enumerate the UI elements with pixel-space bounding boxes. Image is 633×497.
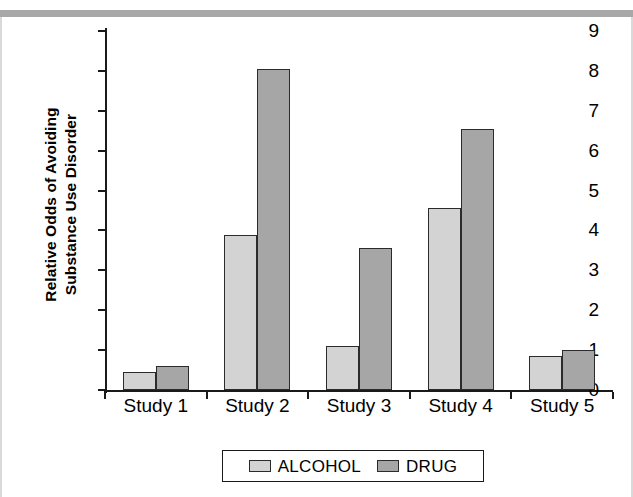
- page-top-margin: [0, 0, 633, 10]
- y-tick-6: [98, 150, 105, 152]
- bar-drug-study-1: [156, 366, 189, 390]
- y-tick-label-8: 8: [559, 61, 599, 80]
- x-label-study-2: Study 2: [207, 396, 309, 417]
- bar-drug-study-2: [257, 69, 290, 390]
- legend-entry-drug: DRUG: [377, 458, 457, 475]
- scan-artifact-bar: [0, 10, 633, 17]
- y-tick-3: [98, 269, 105, 271]
- bar-chart-figure: Relative Odds of Avoiding Substance Use …: [0, 0, 633, 497]
- legend-label-drug: DRUG: [406, 458, 457, 475]
- y-tick-label-6: 6: [559, 141, 599, 160]
- legend-swatch-alcohol-icon: [249, 460, 271, 472]
- y-tick-1: [98, 349, 105, 351]
- y-tick-label-9: 9: [559, 21, 599, 40]
- y-axis-title: Relative Odds of Avoiding Substance Use …: [0, 0, 60, 420]
- y-tick-label-3: 3: [559, 260, 599, 279]
- chart-legend: ALCOHOL DRUG: [222, 450, 484, 482]
- y-axis-title-line-2: Substance Use Disorder: [61, 55, 80, 355]
- legend-label-alcohol: ALCOHOL: [278, 458, 361, 475]
- y-axis-title-line-1: Relative Odds of Avoiding: [41, 55, 60, 355]
- bar-alcohol-study-1: [123, 372, 156, 390]
- x-label-study-3: Study 3: [308, 396, 410, 417]
- bar-alcohol-study-2: [224, 235, 257, 390]
- legend-entry-alcohol: ALCOHOL: [249, 458, 361, 475]
- x-label-study-4: Study 4: [410, 396, 512, 417]
- x-label-study-5: Study 5: [511, 396, 613, 417]
- y-tick-0: [98, 389, 105, 391]
- y-tick-7: [98, 110, 105, 112]
- y-tick-9: [98, 30, 105, 32]
- y-tick-5: [98, 190, 105, 192]
- bar-alcohol-study-5: [529, 356, 562, 390]
- bar-alcohol-study-3: [326, 346, 359, 390]
- bar-drug-study-5: [562, 350, 595, 390]
- legend-swatch-drug-icon: [377, 460, 399, 472]
- bar-drug-study-3: [359, 248, 392, 390]
- y-tick-label-4: 4: [559, 220, 599, 239]
- y-tick-2: [98, 309, 105, 311]
- x-label-study-1: Study 1: [105, 396, 207, 417]
- y-tick-label-5: 5: [559, 181, 599, 200]
- y-tick-8: [98, 70, 105, 72]
- plot-area: 0123456789: [105, 31, 613, 390]
- y-tick-label-2: 2: [559, 300, 599, 319]
- y-tick-label-7: 7: [559, 101, 599, 120]
- y-axis-line: [105, 28, 107, 393]
- y-tick-4: [98, 229, 105, 231]
- x-axis-line: [104, 390, 613, 392]
- bar-alcohol-study-4: [428, 208, 461, 390]
- bar-drug-study-4: [461, 129, 494, 390]
